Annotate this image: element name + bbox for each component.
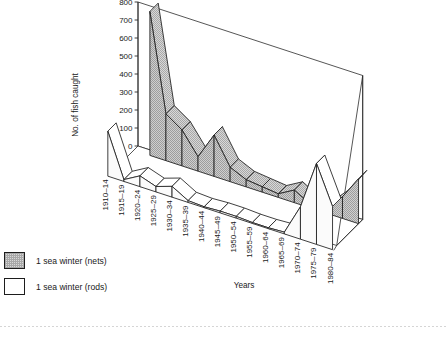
x-tick-label: 1920–24 [133, 189, 142, 221]
x-tick-label: 1960–64 [261, 231, 270, 263]
x-tick-label: 1965–69 [277, 237, 286, 269]
x-tick-label: 1925–29 [149, 195, 158, 227]
y-tick-label: 700 [119, 16, 133, 25]
y-tick-label: 500 [119, 52, 133, 61]
x-tick-label: 1915–19 [117, 184, 126, 216]
chart-container: 0100200300400500600700800 1910–141915–19… [0, 0, 447, 339]
y-axis-title: No. of fish caught [71, 72, 80, 136]
legend-item-nets: 1 sea winter (nets) [4, 252, 107, 269]
y-tick-label: 200 [119, 106, 133, 115]
y-tick-label: 400 [119, 70, 133, 79]
x-tick-label: 1950–54 [229, 221, 238, 253]
y-tick-label: 800 [119, 0, 133, 7]
y-tick-label: 0 [128, 142, 133, 151]
x-tick-label: 1970–74 [293, 242, 302, 274]
x-tick-label: 1940–44 [197, 210, 206, 242]
legend-label-nets: 1 sea winter (nets) [36, 256, 107, 266]
legend-item-rods: 1 sea winter (rods) [4, 278, 107, 295]
legend-swatch-rods [4, 278, 25, 295]
y-tick-label: 600 [119, 34, 133, 43]
x-tick-label: 1910–14 [101, 179, 110, 211]
page-separator-rule [0, 326, 447, 327]
legend: 1 sea winter (nets) 1 sea winter (rods) [4, 252, 107, 295]
legend-label-rods: 1 sea winter (rods) [36, 282, 107, 292]
x-tick-label: 1980–84 [326, 252, 335, 284]
x-tick-label: 1930–34 [165, 200, 174, 232]
y-tick-label: 100 [119, 124, 133, 133]
x-tick-label: 1975–79 [309, 247, 318, 279]
y-tick-label: 300 [119, 88, 133, 97]
x-axis-title: Years [234, 281, 255, 290]
legend-swatch-nets [4, 252, 25, 269]
x-tick-label: 1955–59 [245, 226, 254, 258]
x-tick-label: 1935–39 [181, 205, 190, 237]
x-tick-label: 1945–49 [213, 216, 222, 248]
